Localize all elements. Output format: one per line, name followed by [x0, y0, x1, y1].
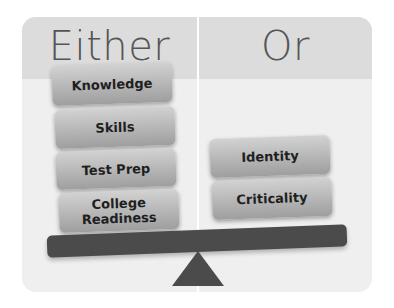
box-identity: Identity — [209, 135, 330, 178]
or-heading: Or — [199, 23, 372, 69]
box-knowledge: Knowledge — [51, 62, 172, 106]
box-skills: Skills — [54, 106, 175, 149]
fulcrum-triangle-icon — [172, 251, 224, 286]
either-heading: Either — [22, 23, 197, 69]
box-criticality: Criticality — [211, 177, 332, 220]
box-college-readiness: College Readiness — [58, 189, 179, 233]
box-test-prep: Test Prep — [55, 148, 176, 190]
